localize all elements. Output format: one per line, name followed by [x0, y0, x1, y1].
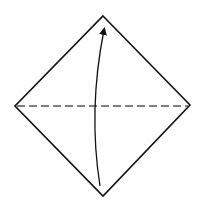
diagram-canvas: [0, 0, 202, 211]
origami-diagram: [0, 0, 202, 211]
